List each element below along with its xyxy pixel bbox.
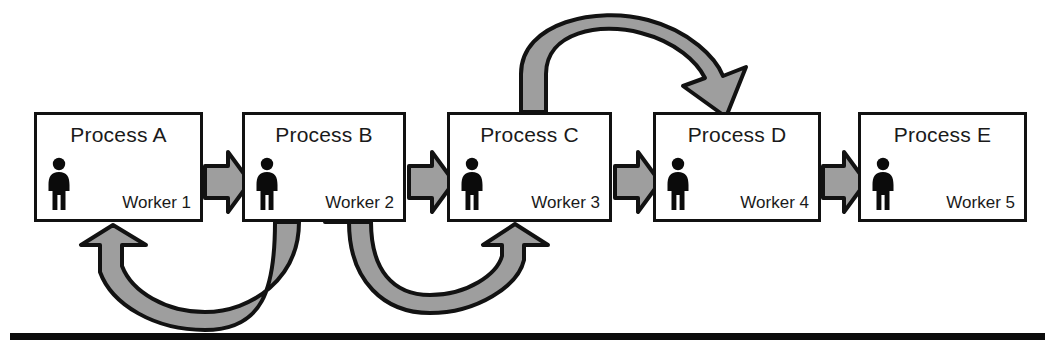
- worker-label-a: Worker 1: [122, 193, 191, 213]
- process-title-d: Process D: [656, 123, 818, 147]
- worker-person-icon: [46, 157, 72, 211]
- process-title-c: Process C: [450, 123, 609, 147]
- baseline-rule: [10, 333, 1045, 340]
- worker-person-icon: [459, 157, 485, 211]
- process-box-c[interactable]: Process C Worker 3: [447, 112, 612, 222]
- worker-person-icon: [870, 157, 896, 211]
- process-box-b[interactable]: Process B Worker 2: [242, 112, 406, 222]
- worker-label-c: Worker 3: [531, 193, 600, 213]
- worker-person-icon: [254, 157, 280, 211]
- process-box-a[interactable]: Process A Worker 1: [34, 112, 203, 222]
- process-flow-diagram: Process A Worker 1 Process B Worker 2 Pr…: [0, 0, 1055, 351]
- process-box-e[interactable]: Process E Worker 5: [858, 112, 1027, 222]
- process-title-a: Process A: [37, 123, 200, 147]
- worker-label-e: Worker 5: [946, 193, 1015, 213]
- process-title-e: Process E: [861, 123, 1024, 147]
- worker-label-b: Worker 2: [325, 193, 394, 213]
- worker-person-icon: [665, 157, 691, 211]
- process-title-b: Process B: [245, 123, 403, 147]
- worker-label-d: Worker 4: [740, 193, 809, 213]
- process-box-d[interactable]: Process D Worker 4: [653, 112, 821, 222]
